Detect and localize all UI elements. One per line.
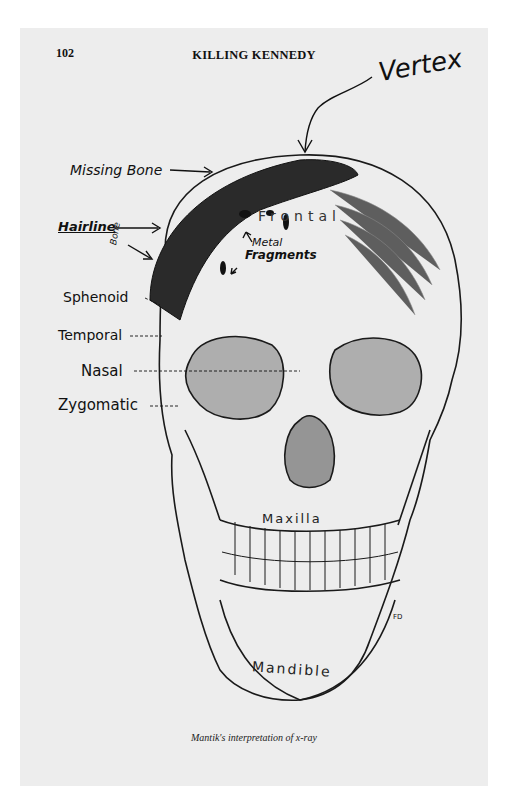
label-sphenoid: Sphenoid <box>63 289 128 305</box>
artist-mark: FD <box>393 613 402 621</box>
label-temporal: Temporal <box>58 327 122 343</box>
label-frontal: Frontal <box>258 208 341 224</box>
label-zygomatic: Zygomatic <box>58 396 138 414</box>
annotation-hairline: Hairline <box>58 219 116 234</box>
annotation-fragments: Fragments <box>245 248 317 262</box>
annotation-missing-bone: Missing Bone <box>70 162 162 178</box>
label-maxilla: Maxilla <box>262 511 322 526</box>
figure-caption: Mantik's interpretation of x-ray <box>0 732 508 743</box>
label-nasal: Nasal <box>81 362 123 380</box>
